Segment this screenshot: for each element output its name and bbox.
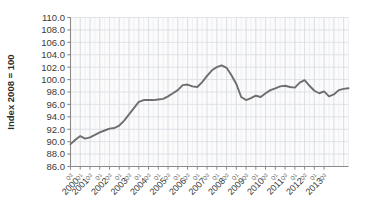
y-axis-title-text: Index 2008 = 100: [5, 54, 16, 129]
y-tick-label: 104.0: [41, 49, 65, 60]
y-axis-ticks: 110.0108.0106.0104.0102.0100.098.096.094…: [41, 12, 70, 172]
y-tick-label: 96.0: [47, 99, 66, 110]
y-tick-label: 100.0: [41, 74, 65, 85]
y-tick-label: 102.0: [41, 62, 65, 73]
y-tick-label: 110.0: [42, 12, 65, 23]
y-axis-title: Index 2008 = 100: [5, 54, 16, 129]
y-tick-label: 108.0: [41, 24, 65, 35]
y-tick-label: 88.0: [47, 148, 66, 159]
y-tick-label: 86.0: [47, 161, 66, 172]
y-tick-label: 98.0: [47, 86, 66, 97]
y-tick-label: 92.0: [47, 124, 66, 135]
chart-container: 110.0108.0106.0104.0102.0100.098.096.094…: [0, 0, 367, 216]
y-tick-label: 90.0: [47, 136, 66, 147]
line-chart: 110.0108.0106.0104.0102.0100.098.096.094…: [0, 0, 367, 216]
y-tick-label: 94.0: [47, 111, 66, 122]
y-tick-label: 106.0: [41, 37, 65, 48]
